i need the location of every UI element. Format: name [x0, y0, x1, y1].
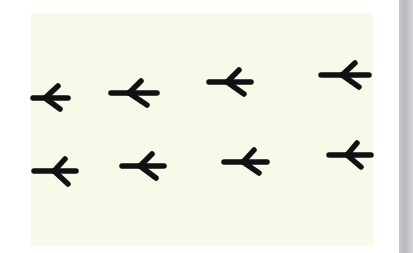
bird-footprint-icon — [111, 81, 157, 105]
bird-footprint-icon — [209, 70, 251, 94]
bird-footprint-icon — [34, 159, 76, 184]
bird-footprint-icon — [224, 150, 267, 173]
bird-footprint-icon — [329, 143, 371, 167]
bird-footprint-icon — [321, 63, 369, 87]
image-canvas — [0, 0, 413, 253]
bird-footprint-icon — [122, 154, 164, 178]
footprint-tracks — [0, 0, 413, 253]
bottom-row — [34, 143, 371, 184]
top-row — [33, 63, 369, 109]
bird-footprint-icon — [33, 86, 68, 109]
